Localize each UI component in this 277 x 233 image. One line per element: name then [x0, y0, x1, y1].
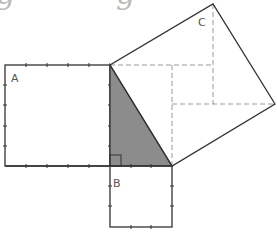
label-b: B — [113, 177, 121, 190]
label-c: C — [198, 16, 206, 29]
square-b — [108, 164, 174, 229]
title-fragment-right: g — [116, 0, 135, 11]
label-a: A — [11, 72, 19, 85]
title-fragment-left: g — [0, 0, 15, 11]
pythagoras-diagram: g g — [0, 0, 277, 233]
square-a — [3, 63, 112, 168]
